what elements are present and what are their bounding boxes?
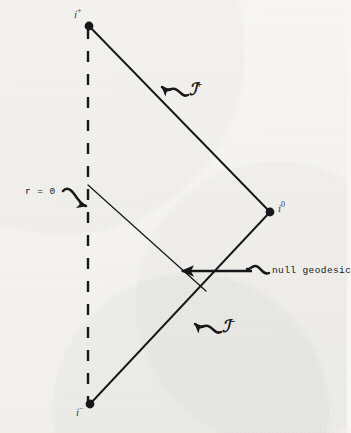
vertex-dot-i-plus	[85, 22, 94, 31]
scri-plus-pointer-squiggle	[162, 87, 188, 96]
label-future-null-infinity: ℐ+	[189, 78, 202, 100]
scri-plus-line	[89, 26, 270, 212]
label-past-null-infinity: ℐ−	[222, 315, 235, 337]
label-scri-plus-superscript: +	[196, 78, 202, 90]
label-null-geodesic: null geodesic	[272, 265, 351, 276]
vertex-dot-i-minus	[86, 400, 95, 409]
scri-minus-line	[90, 212, 270, 404]
vertex-dot-i-zero	[266, 208, 275, 217]
scri-minus-pointer-squiggle	[195, 324, 221, 333]
label-i-zero-superscript: 0	[281, 200, 285, 209]
label-spatial-infinity: i0	[278, 200, 285, 214]
label-past-timelike-infinity: i−	[76, 404, 84, 418]
label-future-timelike-infinity: i+	[74, 6, 82, 20]
label-scri-minus-superscript: −	[229, 315, 235, 327]
null-geodesic-line	[88, 185, 206, 291]
label-i-minus-superscript: −	[79, 404, 84, 413]
r0-pointer-squiggle	[63, 189, 86, 206]
label-i-plus-superscript: +	[77, 6, 82, 15]
label-origin-worldline: r = 0	[25, 186, 56, 197]
